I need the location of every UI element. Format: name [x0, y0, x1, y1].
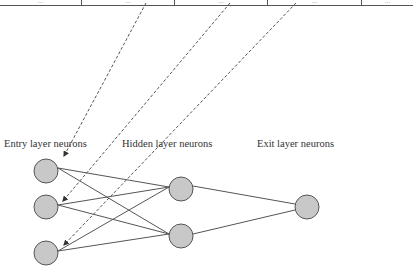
entry-layer-label: Entry layer neurons — [4, 138, 87, 149]
hidden-layer — [169, 177, 193, 248]
entry-neuron — [34, 159, 58, 183]
hidden-neuron — [169, 177, 193, 201]
exit-layer-label: Exit layer neurons — [257, 138, 334, 149]
edge — [58, 187, 169, 205]
entry-neuron — [34, 195, 58, 219]
dashed-pointers — [63, 3, 296, 245]
entry-layer — [34, 159, 58, 265]
exit-neuron — [295, 195, 319, 219]
dashed-arrow-2 — [63, 3, 230, 201]
dashed-arrow-1 — [64, 3, 146, 156]
edge — [193, 210, 295, 234]
edge — [193, 186, 295, 204]
edge — [58, 234, 169, 251]
exit-layer — [295, 195, 319, 219]
dashed-arrow-3 — [64, 3, 296, 245]
neural-network-diagram — [0, 0, 413, 268]
hidden-layer-label: Hidden layer neurons — [122, 138, 212, 149]
edge — [58, 187, 169, 251]
hidden-neuron — [169, 224, 193, 248]
entry-neuron — [34, 241, 58, 265]
